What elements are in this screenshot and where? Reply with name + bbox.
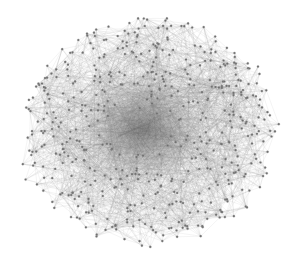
network-graph-canvas — [0, 0, 298, 274]
graph-node — [55, 117, 57, 119]
graph-node — [170, 180, 172, 182]
graph-node — [131, 173, 133, 175]
graph-node — [95, 223, 97, 225]
graph-node — [197, 210, 199, 212]
graph-node — [106, 218, 108, 220]
graph-node — [70, 216, 72, 218]
graph-node — [191, 26, 193, 28]
graph-node — [183, 25, 185, 27]
graph-node — [136, 168, 138, 170]
graph-node — [137, 178, 139, 180]
graph-node — [126, 219, 128, 221]
graph-node — [36, 183, 38, 185]
graph-node — [146, 98, 148, 100]
graph-node — [44, 77, 46, 79]
graph-node — [168, 227, 170, 229]
graph-node — [245, 122, 247, 124]
graph-node — [80, 191, 82, 193]
graph-node — [257, 66, 259, 68]
graph-node — [238, 169, 240, 171]
graph-node — [43, 90, 45, 92]
graph-node — [95, 28, 97, 30]
graph-node — [271, 135, 273, 137]
graph-node — [166, 28, 168, 30]
graph-node — [258, 130, 260, 132]
graph-node — [54, 168, 56, 170]
graph-node — [59, 154, 61, 156]
graph-node — [72, 192, 74, 194]
graph-node — [134, 31, 136, 33]
graph-node — [155, 231, 157, 233]
graph-node — [256, 133, 258, 135]
graph-node — [162, 78, 164, 80]
graph-node — [99, 81, 101, 83]
graph-node — [154, 179, 156, 181]
graph-node — [228, 113, 230, 115]
graph-node — [235, 74, 237, 76]
graph-node — [75, 158, 77, 160]
graph-node — [240, 94, 242, 96]
graph-node — [164, 85, 166, 87]
graph-node — [240, 80, 242, 82]
graph-node — [117, 35, 119, 37]
graph-node — [121, 169, 123, 171]
graph-node — [25, 178, 27, 180]
graph-node — [167, 144, 169, 146]
graph-node — [84, 104, 86, 106]
graph-node — [205, 158, 207, 160]
graph-node — [199, 64, 201, 66]
graph-node — [232, 92, 234, 94]
graph-node — [247, 62, 249, 64]
graph-node — [150, 95, 152, 97]
graph-node — [94, 170, 96, 172]
graph-node — [182, 105, 184, 107]
graph-node — [221, 87, 223, 89]
graph-node — [256, 82, 258, 84]
graph-node — [228, 183, 230, 185]
graph-node — [87, 198, 89, 200]
graph-node — [146, 19, 148, 21]
graph-node — [62, 148, 64, 150]
graph-node — [29, 110, 31, 112]
graph-node — [170, 227, 172, 229]
graph-node — [85, 211, 87, 213]
graph-node — [37, 83, 39, 85]
graph-node — [193, 203, 195, 205]
graph-node — [170, 135, 172, 137]
graph-node — [46, 112, 48, 114]
graph-node — [122, 47, 124, 49]
graph-node — [149, 246, 151, 248]
graph-node — [185, 139, 187, 141]
graph-node — [135, 56, 137, 58]
graph-node — [219, 216, 221, 218]
graph-node — [69, 137, 71, 139]
graph-node — [233, 52, 235, 54]
graph-node — [111, 148, 113, 150]
graph-node — [137, 82, 139, 84]
graph-node — [128, 22, 130, 24]
graph-node — [180, 25, 182, 27]
graph-node — [126, 207, 128, 209]
graph-node — [61, 192, 63, 194]
graph-node — [135, 170, 137, 172]
graph-node — [129, 204, 131, 206]
graph-node — [106, 143, 108, 145]
graph-node — [156, 112, 158, 114]
graph-node — [81, 104, 83, 106]
graph-node — [214, 51, 216, 53]
graph-node — [32, 165, 34, 167]
graph-node — [176, 192, 178, 194]
graph-node — [175, 200, 177, 202]
graph-node — [41, 82, 43, 84]
graph-node — [86, 35, 88, 37]
graph-node — [269, 130, 271, 132]
graph-node — [215, 181, 217, 183]
graph-node — [191, 157, 193, 159]
graph-node — [248, 67, 250, 69]
graph-node — [215, 40, 217, 42]
graph-node — [130, 210, 132, 212]
graph-node — [258, 104, 260, 106]
graph-node — [66, 68, 68, 70]
graph-node — [243, 175, 245, 177]
graph-node — [197, 101, 199, 103]
